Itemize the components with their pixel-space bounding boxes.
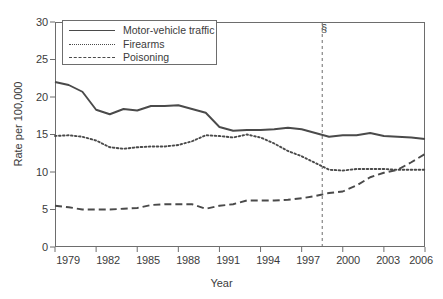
legend-swatch-dashed-icon: [69, 57, 115, 61]
legend-item-motor-vehicle-traffic: Motor-vehicle traffic: [69, 24, 215, 38]
series-line-firearms: [55, 135, 425, 171]
series-line-poisoning: [55, 154, 425, 210]
data-series-group: [55, 82, 425, 210]
legend-item-poisoning: Poisoning: [69, 51, 215, 65]
legend-label-firearms: Firearms: [123, 38, 164, 51]
legend: Motor-vehicle traffic Firearms Poisoning: [62, 20, 217, 65]
legend-swatch-solid-icon: [69, 30, 115, 34]
legend-label-motor-vehicle-traffic: Motor-vehicle traffic: [123, 24, 214, 37]
legend-item-firearms: Firearms: [69, 38, 215, 52]
line-chart: 30 25 20 15 10 5 0 1979 1982 1985 1988 1…: [0, 0, 443, 299]
legend-swatch-dotted-icon: [69, 44, 115, 48]
series-line-motor-vehicle-traffic: [55, 82, 425, 139]
legend-label-poisoning: Poisoning: [123, 51, 169, 64]
